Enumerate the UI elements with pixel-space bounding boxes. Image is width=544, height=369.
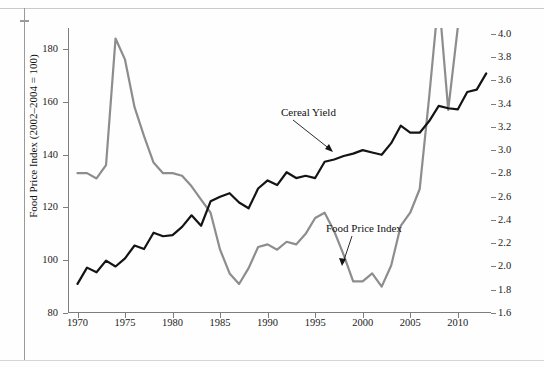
y-axis-right-tick: [491, 34, 496, 35]
y-axis-left-tick-label: 180: [18, 44, 58, 54]
y-axis-left-tick-label: 80: [18, 308, 58, 318]
y-axis-right-tick-label: 2.2: [498, 238, 538, 248]
tick-label-text: 2.0: [498, 261, 538, 271]
x-axis-tick-label: 2000: [341, 317, 385, 328]
y-axis-left-tick-label: 100: [18, 255, 58, 265]
y-axis-right-tick-label: 2.4: [498, 215, 538, 225]
y-axis-left-tick: [63, 313, 68, 314]
y-axis-right-tick: [491, 313, 496, 314]
y-axis-right-tick-label: 2.8: [498, 168, 538, 178]
series-line-cereal-yield: [78, 73, 487, 284]
y-axis-left-tick-label: 120: [18, 202, 58, 212]
figure-border-bottom: [0, 360, 544, 361]
x-axis-tick-label: 1975: [103, 317, 147, 328]
y-axis-right-tick-label: 2.6: [498, 192, 538, 202]
tick-label-text: 2.8: [498, 168, 538, 178]
tick-label-text: 80: [18, 308, 58, 318]
y-axis-right-tick-label: 3.2: [498, 122, 538, 132]
x-axis-tick-label: 2010: [436, 317, 480, 328]
y-axis-right-tick: [491, 150, 496, 151]
y-axis-left-tick-label: 140: [18, 150, 58, 160]
figure-border-top: [0, 8, 544, 9]
tick-label-text: 1.8: [498, 285, 538, 295]
y-axis-left-tick-label: 160: [18, 97, 58, 107]
y-axis-right-tick: [491, 104, 496, 105]
tick-label-text: 3.2: [498, 122, 538, 132]
y-axis-right-tick: [491, 80, 496, 81]
y-axis-right-tick-label: 2.0: [498, 261, 538, 271]
tick-label-text: 180: [18, 44, 58, 54]
tick-label-text: 2.6: [498, 192, 538, 202]
y-axis-right-tick: [491, 290, 496, 291]
y-axis-right-tick-label: 1.8: [498, 285, 538, 295]
y-axis-right-tick-label: 1.6: [498, 308, 538, 318]
tick-label-text: 120: [18, 202, 58, 212]
tick-label-text: 3.4: [498, 99, 538, 109]
series-lines: [68, 28, 491, 313]
tick-label-text: 2.4: [498, 215, 538, 225]
y-axis-right-tick: [491, 243, 496, 244]
y-axis-right-tick: [491, 127, 496, 128]
y-axis-right-tick-label: 3.8: [498, 52, 538, 62]
tick-label-text: 3.8: [498, 52, 538, 62]
tick-label-text: 160: [18, 97, 58, 107]
tick-label-text: 3.6: [498, 75, 538, 85]
x-axis-tick-label: 1985: [198, 317, 242, 328]
y-axis-right-tick-label: 3.0: [498, 145, 538, 155]
tick-label-text: 140: [18, 150, 58, 160]
tick-label-text: 1.6: [498, 308, 538, 318]
x-axis-tick-label: 1970: [56, 317, 100, 328]
y-axis-right-tick: [491, 197, 496, 198]
plot-area: [68, 28, 491, 313]
annotation-food-price-index: Food Price Index: [326, 222, 402, 234]
y-axis-right-tick: [491, 173, 496, 174]
y-axis-right-tick: [491, 266, 496, 267]
tick-label-text: 100: [18, 255, 58, 265]
y-axis-right-tick: [491, 220, 496, 221]
y-axis-right-tick-label: 3.4: [498, 99, 538, 109]
x-axis-tick-label: 1990: [246, 317, 290, 328]
y-axis-right-tick: [491, 57, 496, 58]
y-axis-right-tick-label: 3.6: [498, 75, 538, 85]
tick-label-text: 3.0: [498, 145, 538, 155]
x-axis-tick-label: 1995: [293, 317, 337, 328]
y-axis-right-tick-label: 4.0: [498, 29, 538, 39]
tick-label-text: 4.0: [498, 29, 538, 39]
x-axis-tick-label: 2005: [388, 317, 432, 328]
annotation-cereal-yield: Cereal Yield: [281, 106, 336, 118]
tick-label-text: 2.2: [498, 238, 538, 248]
x-axis-tick-label: 1980: [151, 317, 195, 328]
chart-figure: Food Price Index (2002–2004 = 100) Cerea…: [0, 0, 544, 369]
